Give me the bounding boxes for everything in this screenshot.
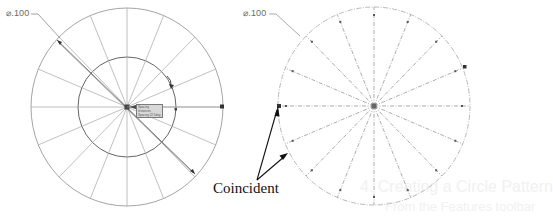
spoke-line bbox=[127, 16, 164, 108]
spoke-endpoint bbox=[407, 189, 409, 191]
left-dimension-leader bbox=[31, 14, 60, 38]
spoke-endpoint bbox=[292, 140, 294, 142]
spoke-line bbox=[337, 15, 374, 107]
right-center-point bbox=[372, 104, 377, 109]
spoke-line bbox=[374, 68, 463, 106]
spoke-endpoint bbox=[311, 41, 313, 43]
spoke-line bbox=[306, 106, 374, 176]
spoke-endpoint bbox=[373, 196, 375, 198]
left-endpoint-outer bbox=[220, 105, 224, 109]
left-diameter-dimension[interactable]: ⌀.100 bbox=[6, 8, 30, 18]
spoke-line bbox=[374, 36, 442, 106]
pattern-tooltip: Spacing Instances Spacing 22.5deg bbox=[136, 104, 163, 118]
spoke-line bbox=[59, 37, 127, 107]
spoke-line bbox=[285, 106, 374, 144]
spoke-endpoint bbox=[292, 70, 294, 72]
spoke-line bbox=[59, 107, 127, 177]
right-figure bbox=[257, 7, 470, 205]
right-dimension-leader bbox=[269, 14, 300, 36]
coincident-arrow-1 bbox=[257, 110, 277, 180]
spoke-endpoint bbox=[407, 21, 409, 23]
spoke-endpoint bbox=[454, 70, 456, 72]
right-endpoint-upper-right bbox=[463, 65, 467, 69]
spoke-endpoint bbox=[435, 169, 437, 171]
left-endpoint-inner bbox=[175, 108, 178, 111]
coincident-callout: Coincident bbox=[213, 180, 279, 197]
right-diameter-dimension[interactable]: ⌀.100 bbox=[243, 8, 267, 18]
spoke-line bbox=[374, 106, 463, 144]
spoke-line bbox=[38, 107, 127, 145]
coincident-arrow-2 bbox=[257, 156, 285, 180]
spoke-line bbox=[127, 107, 164, 199]
spoke-line bbox=[38, 69, 127, 107]
spoke-line bbox=[337, 106, 374, 198]
spoke-endpoint bbox=[339, 21, 341, 23]
spoke-line bbox=[285, 68, 374, 106]
spoke-line bbox=[374, 106, 411, 198]
spoke-line bbox=[90, 107, 127, 199]
spoke-endpoint bbox=[435, 41, 437, 43]
spoke-endpoint bbox=[373, 14, 375, 16]
spoke-endpoint bbox=[454, 140, 456, 142]
spoke-line bbox=[374, 15, 411, 107]
spoke-endpoint bbox=[285, 105, 287, 107]
spoke-line bbox=[374, 106, 442, 176]
spoke-line bbox=[306, 36, 374, 106]
spoke-line bbox=[127, 37, 195, 107]
spoke-endpoint bbox=[461, 105, 463, 107]
left-figure bbox=[31, 8, 224, 206]
spoke-line bbox=[90, 16, 127, 108]
spoke-endpoint bbox=[339, 189, 341, 191]
spoke-endpoint bbox=[311, 169, 313, 171]
tooltip-row-3: Spacing 22.5deg bbox=[138, 113, 161, 117]
